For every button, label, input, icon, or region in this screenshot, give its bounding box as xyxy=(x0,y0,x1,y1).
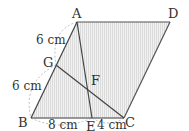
label-G: G xyxy=(43,55,53,70)
measure-EC: 4 cm xyxy=(97,118,127,131)
geometry-diagram: A D B C E G F 6 cm 6 cm 8 cm 4 cm xyxy=(0,0,189,131)
label-D: D xyxy=(168,6,178,21)
label-E: E xyxy=(86,119,96,131)
measure-GB: 6 cm xyxy=(12,79,42,93)
measure-BE: 8 cm xyxy=(48,118,78,131)
label-B: B xyxy=(18,115,28,130)
measure-AG: 6 cm xyxy=(36,33,66,47)
label-A: A xyxy=(71,6,82,21)
label-F: F xyxy=(91,73,100,88)
